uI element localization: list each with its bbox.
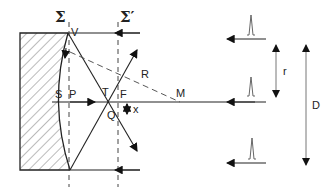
label-M: M xyxy=(176,88,185,99)
label-sigma-prime: Σ′ xyxy=(120,10,135,25)
label-x: x xyxy=(133,104,139,115)
pulse-mid xyxy=(247,77,255,96)
label-R: R xyxy=(141,69,149,80)
pulse-top xyxy=(247,15,255,35)
label-D: D xyxy=(312,100,320,111)
diagram-graphics xyxy=(0,0,336,187)
label-S: S xyxy=(55,89,62,100)
label-Q: Q xyxy=(107,110,116,121)
label-P: P xyxy=(69,89,76,100)
label-T: T xyxy=(102,87,109,98)
optics-diagram: Σ Σ′ V S P T F Q x R M r D xyxy=(0,0,336,187)
label-sigma: Σ xyxy=(55,10,66,25)
pulse-bottom xyxy=(248,138,256,159)
label-F: F xyxy=(120,89,127,100)
label-r: r xyxy=(283,66,287,77)
label-V: V xyxy=(71,27,78,38)
